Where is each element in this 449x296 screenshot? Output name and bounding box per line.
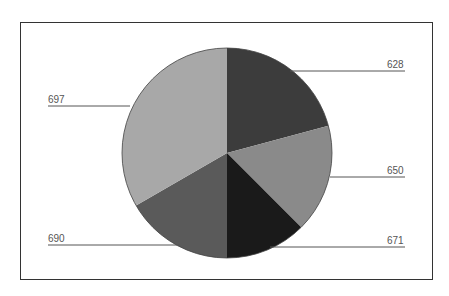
pie-chart	[0, 0, 449, 296]
label-650: 650	[387, 166, 404, 176]
label-671: 671	[387, 236, 404, 246]
label-690: 690	[48, 234, 65, 244]
label-628: 628	[387, 60, 404, 70]
label-697: 697	[48, 95, 65, 105]
